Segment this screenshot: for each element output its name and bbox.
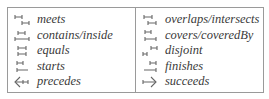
relations-legend: meets contains/inside equals bbox=[7, 7, 264, 93]
legend-item-overlaps-intersects: overlaps/intersects bbox=[142, 12, 263, 28]
legend-item-finishes: finishes bbox=[142, 59, 263, 75]
legend-item-succeeds: succeeds bbox=[142, 74, 263, 90]
succeeds-icon bbox=[142, 76, 158, 88]
legend-item-meets: meets bbox=[14, 12, 135, 28]
legend-column-right: overlaps/intersects covers/coveredBy dis… bbox=[136, 8, 263, 92]
covers-coveredby-icon bbox=[142, 29, 158, 41]
legend-item-contains-inside: contains/inside bbox=[14, 28, 135, 44]
starts-icon bbox=[14, 60, 30, 72]
legend-item-covers-coveredby: covers/coveredBy bbox=[142, 28, 263, 44]
legend-item-precedes: precedes bbox=[14, 74, 135, 90]
legend-item-disjoint: disjoint bbox=[142, 43, 263, 59]
meets-icon bbox=[14, 14, 30, 26]
legend-item-equals: equals bbox=[14, 43, 135, 59]
legend-column-left: meets contains/inside equals bbox=[8, 8, 136, 92]
precedes-icon bbox=[14, 76, 30, 88]
finishes-icon bbox=[142, 60, 158, 72]
contains-inside-icon bbox=[14, 29, 30, 41]
overlaps-intersects-icon bbox=[142, 14, 158, 26]
legend-item-starts: starts bbox=[14, 59, 135, 75]
equals-icon bbox=[14, 45, 30, 57]
disjoint-icon bbox=[142, 45, 158, 57]
